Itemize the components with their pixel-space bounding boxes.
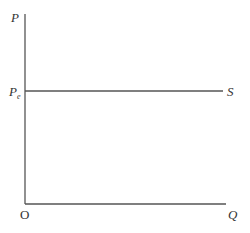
supply-curve-label: S xyxy=(227,84,234,99)
price-level-subscript: e xyxy=(17,92,21,101)
y-axis-label: P xyxy=(10,10,19,25)
origin-label: O xyxy=(20,207,29,222)
x-axis-label: Q xyxy=(228,207,238,222)
supply-diagram: P Pe S O Q xyxy=(0,0,250,233)
price-level-label: Pe xyxy=(8,84,21,101)
price-level-main: P xyxy=(8,84,17,99)
